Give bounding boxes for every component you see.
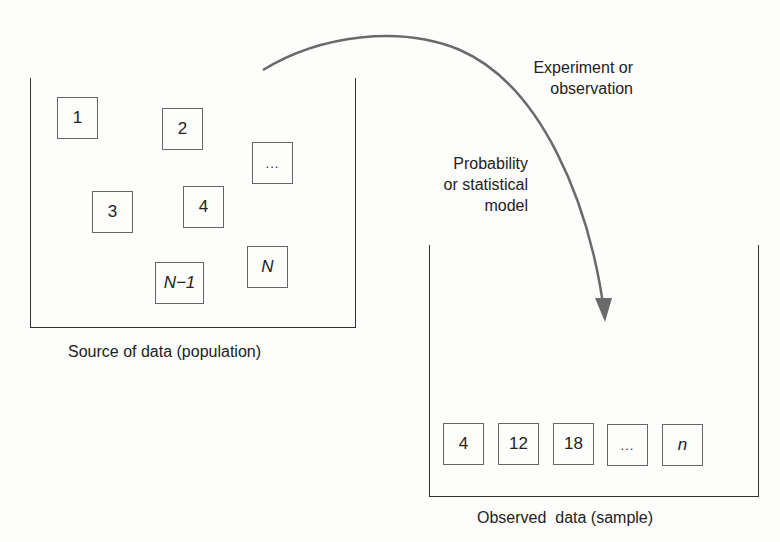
sample-item: 18 (553, 423, 594, 465)
statistics-diagram: 1 2 ... 3 4 N−1 N Source of data (popula… (0, 0, 780, 542)
sample-item: 4 (443, 423, 484, 465)
population-caption: Source of data (population) (68, 343, 261, 361)
experiment-label: Experiment or observation (470, 57, 633, 99)
population-item: 2 (162, 108, 203, 150)
model-label: Probability or statistical model (400, 153, 528, 216)
population-item: N (247, 246, 288, 288)
population-item: 3 (92, 191, 133, 233)
population-item: 4 (183, 186, 224, 228)
sample-caption: Observed data (sample) (477, 509, 653, 527)
population-item: N−1 (155, 262, 204, 304)
sample-item: n (662, 424, 703, 466)
population-item: 1 (57, 97, 98, 139)
sample-item: 12 (498, 423, 539, 465)
sample-item: ... (607, 424, 648, 466)
population-item: ... (252, 142, 293, 184)
